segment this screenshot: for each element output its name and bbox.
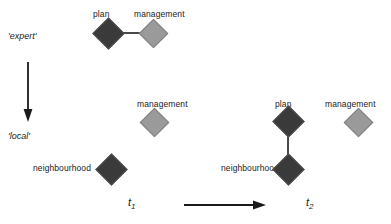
node-t1-plan[interactable]	[92, 17, 125, 50]
time-label-t2: t2	[306, 196, 314, 211]
node-label-t2-management: management	[325, 99, 376, 109]
time-label-t1: t1	[128, 196, 136, 211]
node-t1-management-expert[interactable]	[139, 19, 169, 49]
node-t2-management[interactable]	[344, 108, 374, 138]
node-t2-neighbourhood[interactable]	[272, 153, 305, 186]
node-label-t1-management-expert: management	[134, 9, 185, 19]
axis-label-local: 'local'	[8, 131, 30, 141]
vertical-axis-arrow	[22, 62, 34, 124]
axis-label-expert: 'expert'	[8, 31, 36, 41]
node-t1-neighbourhood[interactable]	[95, 153, 128, 186]
node-t1-management-local[interactable]	[140, 108, 170, 138]
node-label-t1-management-local: management	[137, 99, 188, 109]
diagram-canvas: 'expert' 'local' plan management managem…	[0, 0, 391, 224]
node-t2-plan[interactable]	[272, 105, 305, 138]
time-label-t2-subscript: 2	[309, 202, 313, 211]
time-label-t1-subscript: 1	[131, 202, 135, 211]
horizontal-axis-arrow	[184, 198, 268, 212]
node-label-t1-neighbourhood: neighbourhood	[33, 163, 91, 173]
node-label-t2-neighbourhood: neighbourhood	[221, 163, 279, 173]
